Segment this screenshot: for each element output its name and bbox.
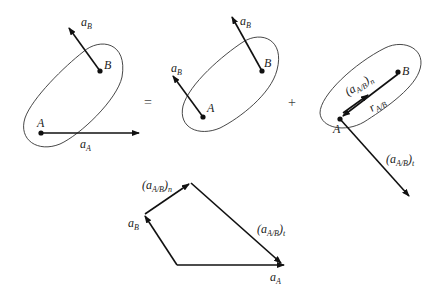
vector-a-b-at-a bbox=[173, 76, 203, 117]
label-normal-accel: (aA/B)n bbox=[342, 71, 376, 100]
vector-normal-accel bbox=[343, 95, 368, 113]
label-a-a: aA bbox=[80, 137, 91, 153]
vector-tangential-accel bbox=[340, 119, 409, 196]
label-a: A bbox=[206, 101, 215, 115]
panel-3-rigid-body: A B (aA/B)n rA/B (aA/B)t bbox=[320, 44, 421, 196]
label-b: B bbox=[104, 58, 112, 72]
equals-sign: = bbox=[144, 95, 152, 110]
point-b bbox=[395, 69, 400, 74]
polygon-label-a-a: aA bbox=[270, 270, 281, 286]
label-a-b: aB bbox=[81, 15, 92, 31]
rigid-body-outline bbox=[182, 37, 278, 131]
label-b: B bbox=[402, 64, 410, 78]
label-tangential-accel: (aA/B)t bbox=[386, 152, 415, 168]
acceleration-diagram: A B aB aA = A B aB aB + A B (aA/B)n rA/B… bbox=[0, 0, 442, 297]
label-a-b-at-a: aB bbox=[171, 61, 182, 77]
label-r-a-b: rA/B bbox=[366, 94, 389, 116]
plus-sign: + bbox=[288, 95, 296, 110]
polygon-label-normal: (aA/B)n bbox=[142, 178, 172, 194]
panel-2-rigid-body: A B aB aB bbox=[171, 14, 279, 131]
polygon-vector-tangential bbox=[191, 183, 281, 263]
label-a: A bbox=[36, 116, 45, 130]
panel-1-rigid-body: A B aB aA bbox=[24, 15, 139, 153]
rigid-body-outline bbox=[320, 44, 421, 128]
label-b: B bbox=[264, 56, 272, 70]
polygon-label-tangential: (aA/B)t bbox=[257, 222, 286, 238]
polygon-vector-a-b bbox=[145, 216, 177, 265]
vector-a-b bbox=[69, 28, 100, 71]
polygon-label-a-b: aB bbox=[128, 216, 139, 232]
vector-polygon: (aA/B)n aB (aA/B)t aA bbox=[128, 178, 286, 286]
label-a: A bbox=[332, 122, 341, 136]
label-a-b-at-b: aB bbox=[240, 14, 251, 30]
